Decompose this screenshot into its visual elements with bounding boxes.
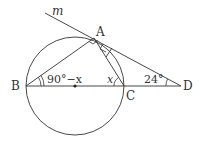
- label-point-d: D: [183, 79, 193, 93]
- angle-arc-d: [166, 79, 168, 86]
- geometry-diagram: m A B C D 90°−x x 24°: [0, 0, 204, 146]
- angle-arc-c: [114, 78, 119, 87]
- label-line-m: m: [52, 4, 63, 18]
- angle-label-c: x: [107, 73, 114, 86]
- label-point-b: B: [11, 79, 20, 93]
- angle-label-b: 90°−x: [47, 73, 83, 86]
- angle-arc-b-inner: [39, 78, 42, 87]
- label-point-a: A: [95, 25, 105, 39]
- angle-arc-b: [41, 76, 44, 87]
- angle-label-d: 24°: [144, 73, 164, 86]
- label-point-c: C: [126, 89, 135, 103]
